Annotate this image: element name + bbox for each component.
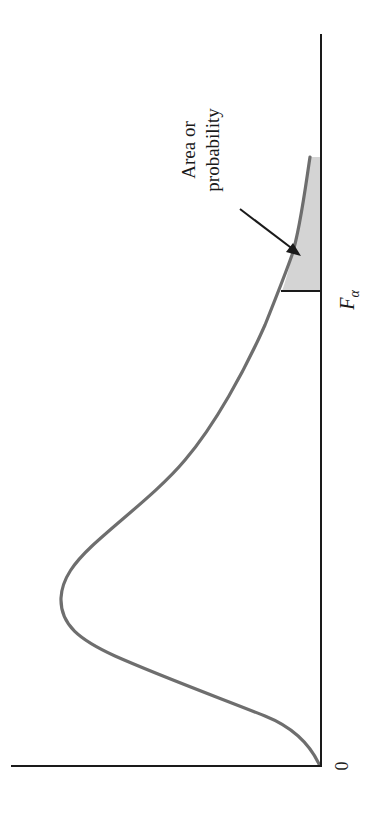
origin-label: 0 (332, 762, 352, 771)
annotation-line-2: probability (202, 108, 223, 192)
critical-value-label: Fα (336, 290, 362, 311)
density-curve (61, 157, 319, 764)
annotation-line-1: Area or (178, 121, 199, 179)
annotation-arrow-shaft (240, 209, 294, 250)
f-distribution-chart: 0 Fα Area or probability (0, 0, 377, 825)
